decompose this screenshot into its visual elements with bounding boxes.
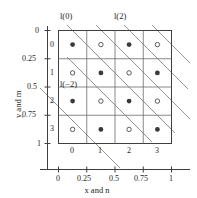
m-index-label-0: 0	[50, 41, 54, 49]
x-axis-title: x and n	[84, 186, 109, 195]
x-tick-label-3: 0.75	[134, 175, 148, 183]
open-marker	[70, 71, 74, 75]
figure-root: 0 0.25 0.5 0.75 1 0 0.25 0.5 0.75 1 0 1 …	[0, 0, 197, 198]
x-tick-label-4: 1	[169, 175, 173, 183]
open-marker	[127, 71, 131, 75]
n-index-label-2: 2	[127, 147, 131, 155]
x-axis	[40, 167, 190, 173]
y-tick-label-4: 1	[37, 140, 41, 148]
open-marker	[70, 127, 74, 131]
filled-marker	[99, 71, 104, 76]
x-tick-label-0: 0	[56, 175, 60, 183]
x-tick-label-1: 0.25	[77, 175, 91, 183]
y-tick-label-0: 0	[35, 27, 39, 35]
filled-marker	[70, 42, 75, 47]
plot-canvas	[0, 0, 197, 198]
filled-marker	[127, 99, 132, 104]
x-tick-label-2: 0.5	[109, 175, 119, 183]
filled-marker	[155, 71, 160, 76]
y-axis-title: y and m	[14, 91, 23, 118]
m-index-label-2: 2	[50, 97, 54, 105]
y-tick-label-1: 0.25	[22, 55, 36, 63]
diagonal-label-l-minus-2: l(−2)	[60, 80, 77, 89]
diagonal-label-l-0: l(0)	[60, 12, 72, 21]
filled-marker	[99, 127, 104, 132]
diagonal-line-l-0	[67, 25, 175, 133]
y-tick-label-2: 0.5	[27, 83, 37, 91]
open-marker	[99, 42, 103, 46]
filled-marker	[70, 99, 75, 104]
open-marker	[99, 99, 103, 103]
diagonal-line-l-2	[124, 25, 188, 89]
m-index-label-3: 3	[50, 125, 54, 133]
n-index-label-1: 1	[98, 147, 102, 155]
diagonal-label-l-2: l(2)	[114, 12, 126, 21]
open-marker	[127, 127, 131, 131]
n-index-label-0: 0	[70, 147, 74, 155]
open-marker	[155, 99, 159, 103]
diagonal-line-l-minus-4	[67, 57, 152, 142]
open-marker	[155, 42, 159, 46]
y-tick-label-3: 0.75	[22, 111, 36, 119]
filled-marker	[155, 127, 160, 132]
m-index-label-1: 1	[50, 69, 54, 77]
n-index-label-3: 3	[155, 147, 159, 155]
filled-marker	[127, 42, 132, 47]
